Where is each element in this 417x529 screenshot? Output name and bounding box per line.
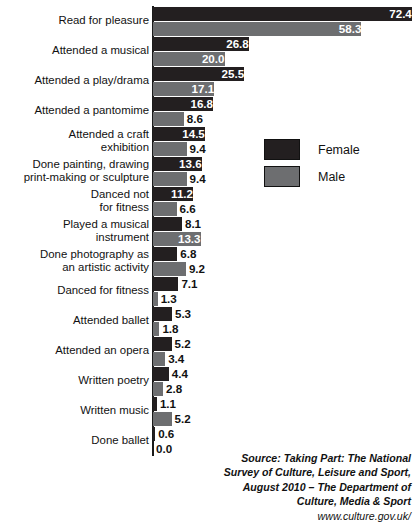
bar-pair: 4.42.8 [153,366,417,396]
bar-row: 5.2 [153,336,417,351]
legend-swatch-female [264,139,300,160]
category-group: Attended ballet5.31.8 [0,306,417,336]
category-group: Attended a musical26.820.0 [0,36,417,66]
bar-female [153,367,169,381]
bar-row: 26.8 [153,36,417,51]
bar-value-label: 26.8 [153,37,252,51]
category-label: Danced for fitness [0,276,149,306]
bar-value-label: 1.8 [159,322,178,336]
bar-value-label: 8.1 [182,217,201,231]
bar-value-label: 2.8 [163,382,182,396]
bar-female [153,337,172,351]
source-url[interactable]: www.culture.gov.uk/ [199,509,411,524]
bar-value-label: 9.4 [187,172,206,186]
legend-item-female: Female [264,136,360,163]
category-label-line: instrument [96,231,149,245]
category-label-line: Attended ballet [73,314,149,328]
bar-male [153,202,177,216]
source-note-line: Source: Taking Part: The National [199,451,411,466]
bar-pair: 5.31.8 [153,306,417,336]
bar-row: 1.8 [153,321,417,336]
plot-area: Read for pleasure72.458.3Attended a musi… [0,6,417,456]
bar-pair: 7.11.3 [153,276,417,306]
bar-row: 72.4 [153,6,417,21]
bar-male [153,412,172,426]
category-label-line: an artistic activity [62,261,149,275]
bar-row: 13.3 [153,231,417,246]
bar-row: 2.8 [153,381,417,396]
category-label-line: Attended an opera [55,344,149,358]
category-label: Attended a craftexhibition [0,126,149,156]
bar-row: 8.6 [153,111,417,126]
bar-pair: 26.820.0 [153,36,417,66]
bar-value-label: 8.6 [184,112,203,126]
category-label: Done painting, drawingprint-making or sc… [0,156,149,186]
category-label: Attended a musical [0,36,149,66]
bar-row: 4.4 [153,366,417,381]
bar-female [153,217,182,231]
bar-value-label: 5.2 [172,412,191,426]
bar-value-label: 5.2 [172,337,191,351]
bar-row: 5.2 [153,411,417,426]
legend-item-male: Male [264,163,360,190]
category-group: Attended an opera5.23.4 [0,336,417,366]
category-label: Done ballet [0,426,149,456]
category-label-line: Danced not [91,188,149,202]
bar-row: 3.4 [153,351,417,366]
category-group: Played a musicalinstrument8.113.3 [0,216,417,246]
category-label: Played a musicalinstrument [0,216,149,246]
category-label: Written music [0,396,149,426]
bar-value-label: 72.4 [153,7,415,21]
category-label-line: Done ballet [91,434,149,448]
bar-value-label: 25.5 [153,67,247,81]
category-label: Written poetry [0,366,149,396]
bar-value-label: 1.3 [158,292,177,306]
category-group: Written poetry4.42.8 [0,366,417,396]
bar-value-label: 9.2 [186,262,205,276]
category-label: Danced notfor fitness [0,186,149,216]
legend-label: Male [318,170,345,184]
bar-value-label: 1.1 [157,397,176,411]
bar-value-label: 16.8 [153,97,216,111]
bar-male [153,382,163,396]
bar-value-label: 13.3 [153,232,204,246]
category-group: Danced for fitness7.11.3 [0,276,417,306]
bar-value-label: 3.4 [165,352,184,366]
bar-pair: 25.517.1 [153,66,417,96]
bar-value-label: 13.6 [153,157,205,171]
category-group: Read for pleasure72.458.3 [0,6,417,36]
bar-pair: 16.88.6 [153,96,417,126]
bar-row: 20.0 [153,51,417,66]
bar-value-label: 0.0 [153,442,172,456]
legend-label: Female [318,143,360,157]
bar-value-label: 4.4 [169,367,188,381]
bar-value-label: 7.1 [178,277,197,291]
category-label-line: Written poetry [78,374,149,388]
source-note-line: Culture, Media & Sport [199,494,411,509]
category-group: Written music1.15.2 [0,396,417,426]
category-label-line: Attended a play/drama [34,74,149,88]
bar-row: 8.1 [153,216,417,231]
bar-pair: 5.23.4 [153,336,417,366]
category-label-line: Written music [80,404,149,418]
category-label-line: Played a musical [63,218,149,232]
category-label-line: print-making or sculpture [24,171,149,185]
bar-value-label: 14.5 [153,127,208,141]
category-label-line: exhibition [101,141,149,155]
legend-swatch-male [264,166,300,187]
bar-row: 1.1 [153,396,417,411]
bar-male [153,352,165,366]
source-note: Source: Taking Part: The NationalSurvey … [199,451,411,524]
bar-value-label: 58.3 [153,22,364,36]
category-label-line: Done painting, drawing [32,158,149,172]
category-group: Attended a play/drama25.517.1 [0,66,417,96]
bar-pair: 11.26.6 [153,186,417,216]
category-group: Done photography asan artistic activity6… [0,246,417,276]
chart-legend: FemaleMale [264,136,360,190]
bar-value-label: 6.8 [177,247,196,261]
category-group: Attended a pantomime16.88.6 [0,96,417,126]
bar-row: 1.3 [153,291,417,306]
bar-value-label: 0.6 [155,427,174,441]
bar-female [153,307,172,321]
category-label: Attended an opera [0,336,149,366]
